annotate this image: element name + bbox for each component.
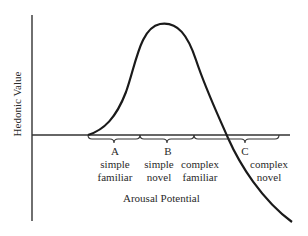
region-c1-line2: familiar: [178, 171, 222, 184]
region-label-simple-novel: simple novel: [140, 158, 178, 184]
brace-a: [88, 135, 140, 143]
brace-b: [140, 135, 194, 143]
region-c1-line1: complex: [178, 158, 222, 171]
region-c-line1: complex: [246, 158, 292, 171]
region-c-line2: novel: [246, 171, 292, 184]
region-letter-a: A: [108, 145, 122, 157]
region-b-line2: novel: [140, 171, 178, 184]
brace-c: [194, 135, 279, 143]
region-letter-c: C: [238, 145, 252, 157]
region-label-complex-novel: complex novel: [246, 158, 292, 184]
region-label-simple-familiar: simple familiar: [94, 158, 136, 184]
region-letter-b: B: [161, 145, 175, 157]
y-axis-label: Hedonic Value: [11, 69, 23, 139]
region-braces: [88, 135, 279, 143]
region-label-complex-familiar: complex familiar: [178, 158, 222, 184]
region-b-line1: simple: [140, 158, 178, 171]
region-a-line2: familiar: [94, 171, 136, 184]
region-a-line1: simple: [94, 158, 136, 171]
x-axis-label: Arousal Potential: [123, 192, 200, 204]
